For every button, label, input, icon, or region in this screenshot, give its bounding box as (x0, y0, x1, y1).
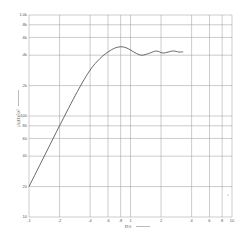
y-tick-label: 40 (23, 153, 28, 158)
y-axis-label-text: |A(D)|²/λ² (16, 109, 21, 127)
y-tick-label: .8k (22, 22, 27, 27)
y-tick-label: .2k (22, 83, 27, 88)
x-tick-label: 4 (190, 218, 193, 223)
y-tick-label: 100 (20, 113, 27, 118)
x-tick-label: .2 (58, 218, 62, 223)
x-tick-label: 10 (230, 218, 235, 223)
y-tick-label: 20 (23, 184, 28, 189)
x-tick-label: 8 (221, 218, 224, 223)
x-tick-label: 1 (129, 218, 132, 223)
y-tick-label: .6k (22, 35, 27, 40)
stray-mark (227, 194, 228, 195)
grid-lines (29, 15, 232, 217)
x-tick-label: .6 (106, 218, 110, 223)
x-axis-ticks: .1.2.4.6.81246810 (27, 218, 235, 223)
log-log-chart: .1.2.4.6.81246810 1020406080100.2k.4k.6k… (0, 0, 248, 242)
y-tick-label: .4k (22, 52, 27, 57)
y-tick-label: 60 (23, 136, 28, 141)
y-tick-label: 1.0k (19, 12, 27, 17)
x-tick-label: .4 (88, 218, 92, 223)
x-tick-label: 2 (160, 218, 163, 223)
y-tick-label: 80 (23, 123, 28, 128)
x-tick-label: .1 (27, 218, 31, 223)
x-tick-label: .8 (119, 218, 123, 223)
x-axis-label-text: D/λ (125, 224, 133, 229)
y-tick-label: 10 (23, 214, 28, 219)
y-axis-label: |A(D)|²/λ² (16, 90, 21, 127)
data-curve (29, 47, 183, 187)
x-axis-label: D/λ (125, 224, 150, 229)
x-tick-label: 6 (208, 218, 211, 223)
